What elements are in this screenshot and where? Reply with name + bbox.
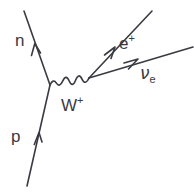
w-boson-label-text: W: [61, 96, 77, 115]
neutrino-label: νe: [140, 65, 156, 85]
proton-label: p: [11, 128, 20, 145]
neutrino-flavor-subscript: e: [150, 73, 156, 85]
neutrino-nu-symbol: ν: [140, 63, 150, 83]
feynman-diagram-canvas: n p W+ e+ νe: [0, 0, 194, 192]
neutron-label-text: n: [15, 31, 24, 50]
positron-charge-superscript: +: [128, 32, 134, 44]
w-boson-label: W+: [61, 95, 83, 114]
w-boson-wavy-line: [50, 76, 89, 85]
positron-label: e+: [119, 33, 135, 52]
feynman-diagram-svg: [0, 0, 194, 192]
neutron-label: n: [15, 32, 24, 49]
proton-label-text: p: [11, 127, 20, 146]
w-boson-charge-superscript: +: [77, 94, 83, 106]
